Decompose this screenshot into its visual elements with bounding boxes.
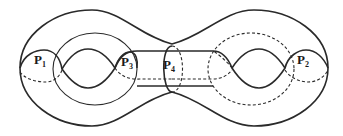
genus-two-surface-diagram: P1 P3 P4 P2 — [0, 0, 343, 136]
right-loop-curve — [208, 33, 294, 105]
right-hole — [232, 49, 285, 88]
neck-back-line — [172, 70, 232, 79]
label-p1: P1 — [34, 52, 46, 69]
label-p3: P3 — [121, 54, 133, 71]
left-hole — [62, 49, 115, 88]
left-loop-curve — [53, 33, 137, 105]
p1-curve-back — [20, 70, 62, 82]
label-p2: P2 — [297, 52, 309, 69]
label-p4: P4 — [163, 57, 175, 74]
